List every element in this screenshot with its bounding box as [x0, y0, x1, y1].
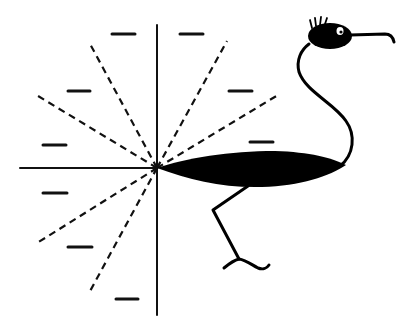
bird — [157, 17, 394, 269]
bird-body — [157, 151, 346, 187]
bird-neck — [298, 44, 352, 166]
bird-head — [308, 23, 352, 49]
dashed-ray-5 — [37, 168, 157, 243]
bird-beak — [350, 34, 394, 42]
dashed-ray-2 — [38, 96, 157, 168]
dashed-ray-3 — [157, 41, 227, 168]
dashed-ray-6 — [89, 168, 157, 293]
axes — [20, 25, 157, 315]
dashed-ray-1 — [89, 42, 157, 168]
bird-diagram — [0, 0, 415, 330]
bird-foot — [224, 259, 269, 269]
bird-leg — [213, 186, 248, 259]
bird-eye — [337, 27, 344, 35]
